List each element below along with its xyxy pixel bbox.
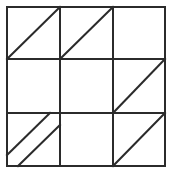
grid-diagram: [0, 0, 170, 175]
cell-top-left: [7, 7, 60, 59]
diagonal-line-0: [113, 59, 165, 113]
diagonal-lines: [7, 7, 165, 166]
cell-middle-right: [113, 59, 165, 113]
cell-bottom-right: [113, 113, 165, 166]
cell-top-center: [60, 7, 113, 59]
cell-bottom-left: [7, 113, 60, 166]
diagonal-line-1: [18, 125, 60, 166]
diagonal-line-0: [7, 7, 60, 59]
diagonal-line-0: [60, 7, 113, 59]
diagonal-line-0: [113, 113, 165, 166]
diagonal-line-0: [7, 113, 50, 155]
grid-lines: [7, 7, 165, 166]
